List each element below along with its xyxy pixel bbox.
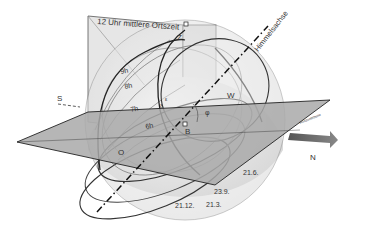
date-label-21-3: 21.3. <box>206 201 222 208</box>
date-label-23-9: 23.9. <box>214 188 230 195</box>
horizon-plane <box>17 100 330 185</box>
date-label-21-12: 21.12. <box>175 202 195 209</box>
south-axis-line <box>58 104 80 107</box>
north-arrow <box>288 131 338 148</box>
celestial-sphere-diagram: 12 Uhr mittlere Ortszeit Himmelsachse Ho… <box>0 0 366 229</box>
latitude-angle-label: φ <box>205 109 210 117</box>
observer-label: B <box>185 127 190 136</box>
celestial-axis-label: Himmelsachse <box>252 9 289 53</box>
west-label: W <box>227 91 235 100</box>
date-label-21-6: 21.6. <box>243 169 259 176</box>
south-label: S <box>57 94 62 103</box>
zenith-marker <box>184 22 188 26</box>
north-label: N <box>310 153 316 162</box>
small-angle-2-label: δ <box>160 103 163 109</box>
observer-marker <box>183 122 187 126</box>
east-label: O <box>118 148 124 157</box>
zenith-label: Z <box>177 33 182 42</box>
